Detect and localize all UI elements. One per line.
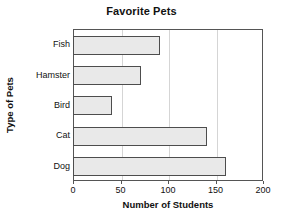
x-axis-tick-labels: 050100150200 — [73, 181, 263, 199]
x-tick-label-200: 200 — [243, 185, 283, 195]
y-axis-tick-labels: FishHamsterBirdCatDog — [8, 29, 70, 181]
bar-row[interactable] — [74, 30, 262, 60]
x-tick-label-50: 50 — [101, 185, 141, 195]
x-tick-mark — [121, 181, 122, 184]
x-tick-mark — [168, 181, 169, 184]
x-tick-label-150: 150 — [196, 185, 236, 195]
bar-dog[interactable] — [73, 157, 226, 176]
y-tick-label-cat: Cat — [10, 130, 70, 140]
x-tick-label-0: 0 — [53, 185, 93, 195]
x-axis-title: Number of Students — [73, 199, 263, 210]
bar-hamster[interactable] — [73, 66, 141, 85]
bar-row[interactable] — [74, 152, 262, 182]
bar-fish[interactable] — [73, 36, 160, 55]
x-tick-mark — [263, 181, 264, 184]
plot-area — [73, 29, 263, 181]
y-tick-label-fish: Fish — [10, 39, 70, 49]
chart-figure: Favorite Pets Type of Pets Number of Stu… — [0, 0, 283, 222]
y-tick-label-hamster: Hamster — [10, 70, 70, 80]
x-tick-mark — [216, 181, 217, 184]
bar-bird[interactable] — [73, 96, 112, 115]
chart-title: Favorite Pets — [0, 5, 283, 17]
x-tick-mark — [73, 181, 74, 184]
bar-row[interactable] — [74, 121, 262, 151]
bar-cat[interactable] — [73, 127, 207, 146]
x-tick-label-100: 100 — [148, 185, 188, 195]
y-tick-label-dog: Dog — [10, 161, 70, 171]
bar-row[interactable] — [74, 91, 262, 121]
y-tick-label-bird: Bird — [10, 100, 70, 110]
bar-row[interactable] — [74, 60, 262, 90]
